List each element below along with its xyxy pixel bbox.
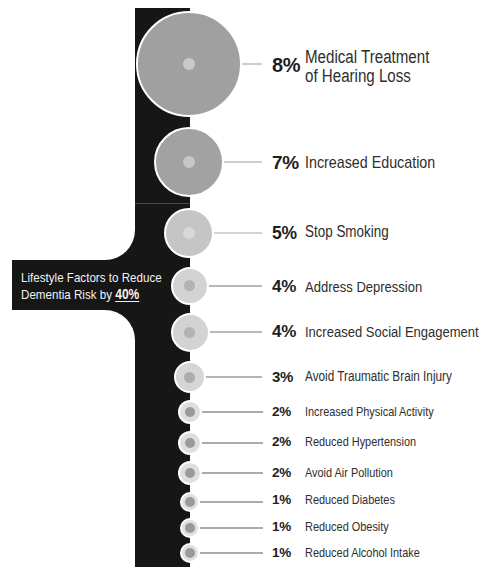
title-line-2: Dementia Risk by 40% (21, 286, 162, 303)
factor-percent: 1% (272, 519, 291, 534)
bubble-center-dot (185, 438, 195, 448)
chart-title: Lifestyle Factors to Reduce Dementia Ris… (21, 270, 162, 303)
factor-label: Reduced Diabetes (305, 492, 395, 507)
factor-label: Stop Smoking (305, 223, 389, 241)
title-line-2-prefix: Dementia Risk by (21, 287, 115, 302)
factor-label-line-1: Medical Treatment (305, 47, 429, 67)
factor-label: Increased Physical Activity (305, 404, 434, 419)
factor-label: Increased Education (305, 153, 435, 173)
title-highlight-percent: 40% (115, 286, 139, 302)
factor-percent: 1% (272, 492, 291, 507)
bubble-center-dot (183, 227, 195, 239)
connector-line (190, 501, 263, 503)
bubble-center-dot (184, 372, 195, 383)
connector-line (190, 552, 263, 554)
factor-label-line-2: of Hearing Loss (305, 66, 411, 86)
factor-percent: 7% (272, 152, 299, 174)
bubble-center-dot (185, 497, 195, 507)
factor-percent: 5% (272, 223, 297, 244)
factor-label: Reduced Alcohol Intake (305, 545, 420, 560)
connector-line (190, 527, 263, 529)
factor-percent: 1% (272, 545, 291, 560)
factor-percent: 4% (272, 277, 296, 297)
factor-percent: 2% (272, 404, 291, 419)
factor-percent: 8% (272, 54, 300, 77)
factor-percent: 2% (272, 434, 291, 449)
panel-fillet-top (105, 230, 135, 260)
factor-label: Avoid Traumatic Brain Injury (305, 368, 452, 384)
factor-label: Reduced Hypertension (305, 434, 416, 449)
bubble-center-dot (184, 327, 195, 338)
bubble-center-dot (185, 548, 195, 558)
factor-percent: 4% (272, 322, 296, 342)
bubble-center-dot (185, 523, 195, 533)
bubble-center-dot (183, 156, 195, 168)
factor-percent: 3% (272, 368, 293, 385)
bubble-center-dot (185, 407, 195, 417)
factor-label: Increased Social Engagement (305, 323, 479, 341)
factor-percent: 2% (272, 465, 291, 480)
spine-seam-divider (135, 203, 190, 204)
bubble-center-dot (183, 58, 195, 70)
panel-fillet-bottom (105, 310, 135, 340)
factor-label: Avoid Air Pollution (305, 465, 393, 480)
bubble-center-dot (184, 280, 195, 291)
factor-label: Reduced Obesity (305, 519, 389, 534)
factor-label: Address Depression (305, 278, 422, 296)
title-line-1: Lifestyle Factors to Reduce (21, 270, 162, 286)
bubble-center-dot (185, 468, 195, 478)
